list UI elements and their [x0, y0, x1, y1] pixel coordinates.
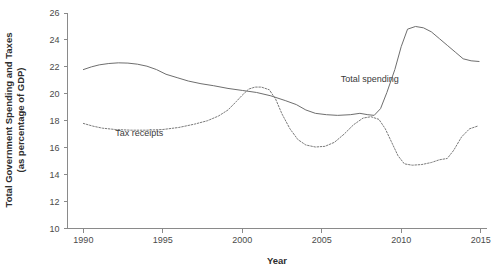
y-axis-title-line1: Total Government Spending and Taxes: [3, 33, 14, 208]
plot-series-group: [83, 26, 479, 165]
y-tick-label: 14: [49, 170, 59, 180]
x-tick-label: 2010: [391, 235, 411, 245]
x-tick-label: 2005: [312, 235, 332, 245]
y-tick-label: 22: [49, 62, 59, 72]
chart-page: 101214161820222426 199019952000200520102…: [0, 0, 495, 275]
x-axis-group: 199019952000200520102015: [68, 229, 491, 245]
series-annotations: Total spending Tax receipts: [115, 74, 399, 139]
y-axis-group: 101214161820222426: [49, 8, 67, 234]
y-axis-ticks: 101214161820222426: [49, 8, 67, 234]
x-tick-label: 2000: [232, 235, 252, 245]
y-tick-label: 12: [49, 197, 59, 207]
x-tick-label: 1995: [153, 235, 173, 245]
y-axis-title-line2: (as percentage of GDP): [15, 67, 26, 172]
series-line-total-spending: [83, 26, 479, 115]
axis-titles: Year Total Government Spending and Taxes…: [3, 33, 287, 266]
y-tick-label: 26: [49, 8, 59, 18]
x-axis-title: Year: [267, 255, 287, 266]
series-label-tax-receipts: Tax receipts: [115, 128, 164, 138]
x-tick-label: 1990: [73, 235, 93, 245]
series-label-total-spending: Total spending: [341, 74, 399, 84]
y-tick-label: 24: [49, 35, 59, 45]
y-tick-label: 10: [49, 224, 59, 234]
x-axis-ticks: 199019952000200520102015: [73, 229, 490, 245]
line-chart: 101214161820222426 199019952000200520102…: [0, 0, 495, 275]
y-tick-label: 20: [49, 89, 59, 99]
x-tick-label: 2015: [471, 235, 491, 245]
y-tick-label: 18: [49, 116, 59, 126]
y-tick-label: 16: [49, 143, 59, 153]
